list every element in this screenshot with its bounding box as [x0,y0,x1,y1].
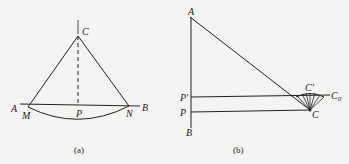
label-p-b: P [179,107,186,118]
line-pc [191,110,310,112]
label-b: B [142,102,148,113]
label-c-b: C [312,109,319,120]
line-ab [20,104,140,106]
caption-b: (b) [233,145,244,155]
figure-b: A P' P B C' C0 C (b) [179,6,342,155]
label-a: A [10,103,18,114]
diagram-canvas: C A M P N B (a) A P' P B C' C0 C (b) [0,0,349,164]
caption-a: (a) [74,145,84,155]
label-m: M [21,110,31,121]
label-n: N [125,108,134,119]
label-c0: C0 [331,90,342,103]
label-p: P [75,108,82,119]
label-p-prime: P' [179,92,189,103]
figure-a: C A M P N B (a) [10,20,148,155]
label-c: C [82,26,89,37]
label-a-b: A [187,6,195,17]
label-c-prime: C' [305,82,315,93]
label-b-b: B [186,127,192,138]
segment-cm [28,36,78,107]
segment-cn [78,36,129,106]
line-p-prime-c0 [191,95,330,97]
